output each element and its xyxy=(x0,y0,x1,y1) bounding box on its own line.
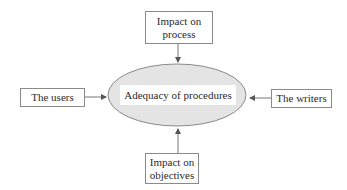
node-the-users: The users xyxy=(20,88,85,107)
center-label: Adequacy of procedures xyxy=(120,85,236,105)
node-label-line2: objectives xyxy=(150,169,195,182)
node-label-line1: Impact on xyxy=(157,15,201,28)
node-label-line1: Impact on xyxy=(150,156,194,169)
node-impact-on-objectives: Impact on objectives xyxy=(145,153,199,184)
node-impact-on-process: Impact on process xyxy=(145,11,213,44)
node-label: The writers xyxy=(276,92,326,105)
node-label-line2: process xyxy=(163,28,196,41)
node-the-writers: The writers xyxy=(271,89,332,108)
node-label: The users xyxy=(31,91,73,104)
